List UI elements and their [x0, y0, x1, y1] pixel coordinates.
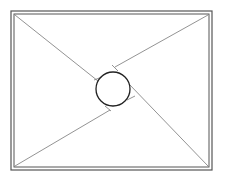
diagonal-bl-upper	[115, 15, 208, 67]
central-circle	[96, 72, 130, 106]
diagonal-tl-upper	[15, 15, 98, 81]
diagonal-tl-lower	[129, 84, 208, 166]
geometry-diagram	[0, 0, 226, 182]
diagonals	[15, 15, 208, 166]
inner-frame	[14, 14, 209, 167]
diagonal-bl-lower	[15, 110, 110, 166]
tangent-mark	[105, 106, 111, 111]
outer-frame	[11, 11, 212, 170]
